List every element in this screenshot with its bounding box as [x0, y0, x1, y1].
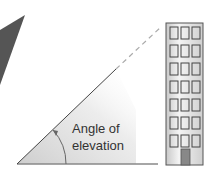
- angle-label-line1: Angle of: [72, 121, 120, 136]
- building: [166, 23, 203, 165]
- sight-line-dashed: [116, 26, 162, 69]
- building-body: [166, 23, 203, 165]
- angle-of-elevation-diagram: Angle of elevation: [0, 0, 217, 179]
- angle-label-line2: elevation: [72, 138, 124, 153]
- building-door: [181, 149, 190, 165]
- dark-wedge-shape: [0, 15, 25, 85]
